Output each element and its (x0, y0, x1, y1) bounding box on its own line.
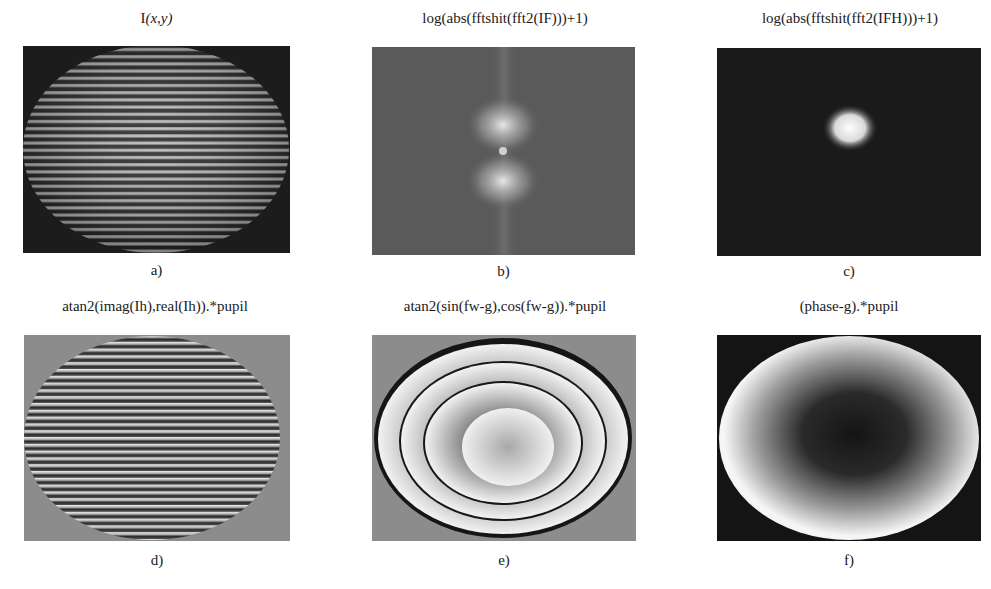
panel-b-spectrum (372, 47, 635, 255)
panel-e-wrapped-rings (372, 335, 636, 541)
panel-d-wrapped-phase (24, 335, 290, 541)
panel-c-filtered-spectrum (717, 48, 981, 256)
panel-f-unwrapped-phase (717, 335, 981, 541)
panel-a-title: I(x,y) (23, 10, 290, 27)
panel-c-label: c) (717, 263, 981, 280)
panel-b-title: log(abs(fftshit(fft2(IF)))+1) (340, 10, 670, 27)
panel-c-title: log(abs(fftshit(fft2(IFH)))+1) (685, 10, 991, 27)
panel-d-title: atan2(imag(Ih),real(Ih)).*pupil (0, 298, 310, 315)
panel-a-label: a) (23, 262, 290, 279)
panel-a-title-italic: (x,y) (145, 10, 172, 26)
panel-e-title: atan2(sin(fw-g),cos(fw-g)).*pupil (340, 298, 670, 315)
panel-f-label: f) (717, 552, 981, 569)
panel-f-title: (phase-g).*pupil (717, 298, 981, 315)
panel-a-interferogram (23, 46, 290, 253)
panel-d-label: d) (24, 552, 290, 569)
panel-e-label: e) (372, 552, 636, 569)
panel-b-label: b) (372, 263, 635, 280)
